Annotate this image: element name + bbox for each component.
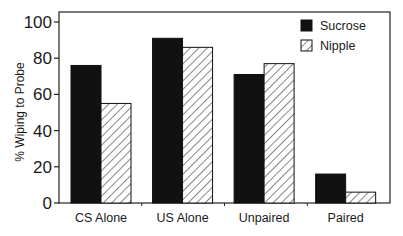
x-category-label: CS Alone [75, 211, 127, 225]
legend: SucroseNipple [301, 19, 366, 53]
bar-sucrose-us-alone [153, 38, 183, 203]
bars [71, 38, 376, 203]
y-tick-label: 20 [33, 158, 52, 177]
bar-nipple-paired [346, 192, 376, 203]
bar-sucrose-cs-alone [71, 65, 101, 203]
legend-label-nipple: Nipple [320, 39, 355, 53]
legend-label-sucrose: Sucrose [320, 19, 366, 33]
y-tick-label: 0 [43, 194, 52, 213]
x-category-label: Paired [328, 211, 364, 225]
bar-nipple-unpaired [264, 64, 294, 203]
bar-sucrose-unpaired [234, 74, 264, 203]
y-axis: 020406080100 [24, 13, 59, 213]
y-tick-label: 80 [33, 49, 52, 68]
legend-swatch-nipple [301, 40, 312, 51]
bar-nipple-cs-alone [101, 103, 131, 203]
x-axis: CS AloneUS AloneUnpairedPaired [75, 203, 364, 225]
bar-sucrose-paired [316, 174, 346, 203]
bar-nipple-us-alone [183, 47, 213, 203]
y-tick-label: 40 [33, 122, 52, 141]
y-tick-label: 60 [33, 85, 52, 104]
x-category-label: Unpaired [239, 211, 290, 225]
y-tick-label: 100 [24, 13, 52, 32]
y-axis-title: % Wiping to Probe [13, 62, 27, 162]
x-category-label: US Alone [156, 211, 208, 225]
legend-swatch-sucrose [301, 20, 312, 31]
bar-chart: 020406080100 CS AloneUS AloneUnpairedPai… [0, 0, 403, 236]
